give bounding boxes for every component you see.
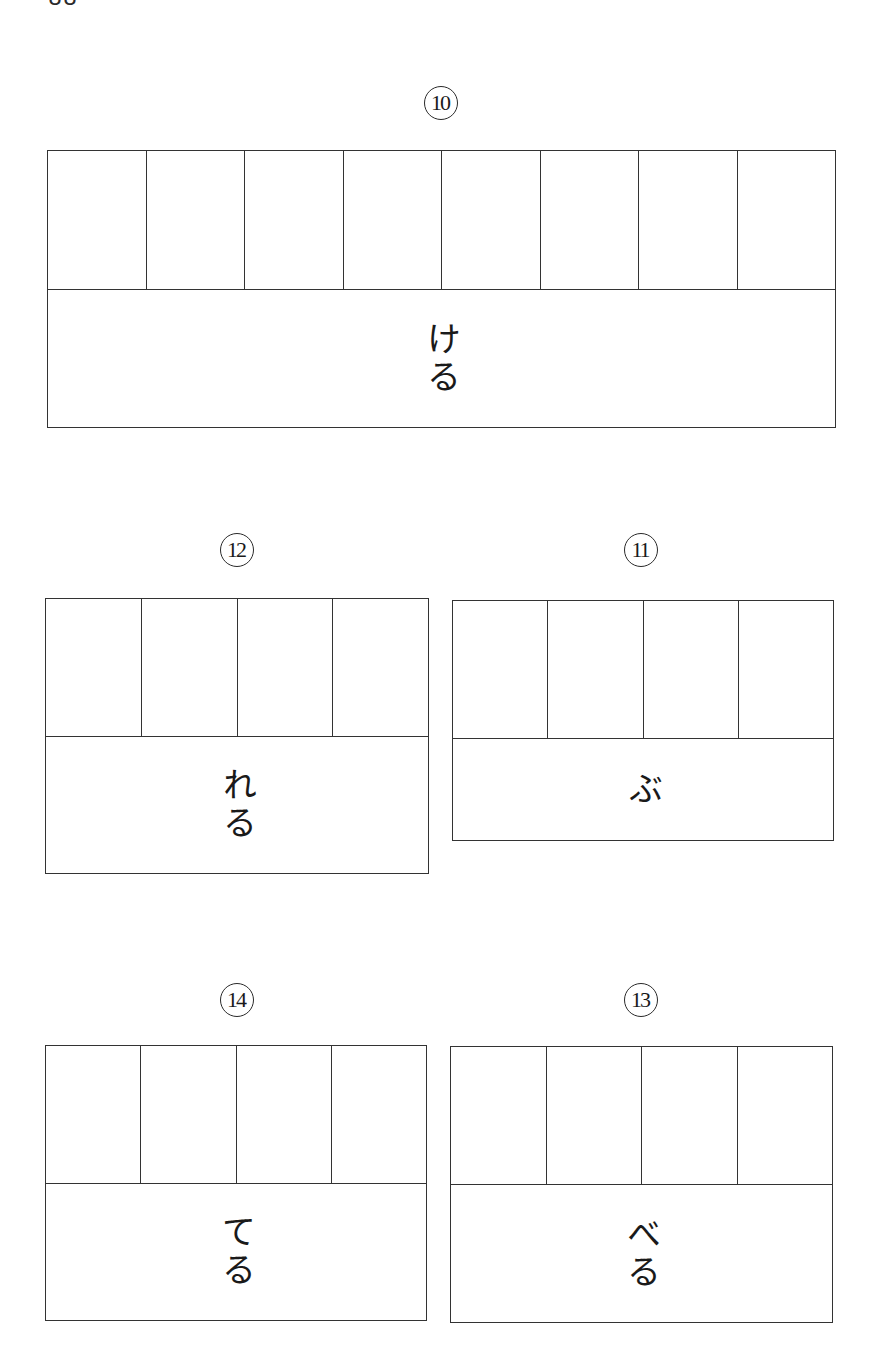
kanji-cell[interactable] [147, 151, 246, 289]
kanji-cell[interactable] [141, 1046, 236, 1183]
question-number-11: 11 [624, 533, 658, 567]
kanji-cells-row [453, 601, 833, 739]
question-number-label: 11 [631, 537, 648, 563]
kanji-cells-row [46, 1046, 426, 1184]
kanji-cell[interactable] [739, 601, 833, 738]
kanji-cell[interactable] [238, 599, 334, 736]
kanji-cell[interactable] [245, 151, 344, 289]
answer-box-10: ける [47, 150, 836, 428]
question-number-13: 13 [624, 983, 658, 1017]
kanji-cell[interactable] [738, 1047, 833, 1184]
kanji-cell[interactable] [548, 601, 643, 738]
answer-box-11: ぶ [452, 600, 834, 841]
question-number-label: 14 [227, 987, 245, 1013]
kanji-cells-row [451, 1047, 832, 1185]
answer-box-14: てる [45, 1045, 427, 1321]
kanji-cell[interactable] [48, 151, 147, 289]
kanji-cell[interactable] [642, 1047, 738, 1184]
kanji-cell[interactable] [46, 599, 142, 736]
okurigana-text: べる [625, 1216, 659, 1292]
okurigana-text: ぶ [626, 771, 660, 809]
okurigana-area: てる [46, 1184, 426, 1320]
kanji-cell[interactable] [738, 151, 836, 289]
okurigana-area: べる [451, 1185, 832, 1322]
kanji-cell[interactable] [344, 151, 443, 289]
kanji-cell[interactable] [442, 151, 541, 289]
okurigana-area: れる [46, 737, 428, 873]
page-number: 88 [48, 0, 78, 9]
question-number-14: 14 [220, 983, 254, 1017]
question-number-10: 10 [424, 86, 458, 120]
question-number-label: 10 [431, 90, 449, 116]
kanji-cell[interactable] [541, 151, 640, 289]
okurigana-text: れる [220, 767, 254, 843]
kanji-cell[interactable] [639, 151, 738, 289]
question-number-label: 12 [227, 537, 245, 563]
okurigana-area: ぶ [453, 739, 833, 840]
kanji-cell[interactable] [142, 599, 238, 736]
kanji-cell[interactable] [644, 601, 739, 738]
question-number-label: 13 [631, 987, 649, 1013]
okurigana-text: てる [219, 1214, 253, 1290]
okurigana-text: ける [425, 321, 459, 397]
kanji-cell[interactable] [333, 599, 428, 736]
kanji-cell[interactable] [453, 601, 548, 738]
kanji-cells-row [46, 599, 428, 737]
kanji-cell[interactable] [547, 1047, 643, 1184]
kanji-cell[interactable] [451, 1047, 547, 1184]
kanji-cell[interactable] [46, 1046, 141, 1183]
okurigana-area: ける [48, 290, 835, 427]
answer-box-13: べる [450, 1046, 833, 1323]
kanji-cell[interactable] [237, 1046, 332, 1183]
answer-box-12: れる [45, 598, 429, 874]
question-number-12: 12 [220, 533, 254, 567]
kanji-cell[interactable] [332, 1046, 426, 1183]
kanji-cells-row [48, 151, 835, 290]
